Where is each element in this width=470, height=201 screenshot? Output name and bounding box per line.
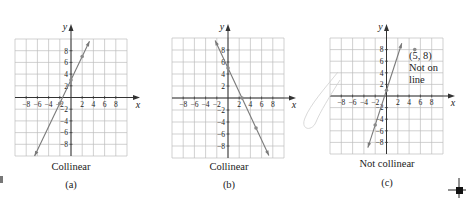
graph-c: xy−8−6−4−224688642−2−4−6−8 [330,21,456,154]
data-point [69,78,73,82]
svg-text:6: 6 [260,100,264,109]
line-arrow-icon [35,151,39,156]
outlier-coordinates: (5, 8) [409,50,438,62]
svg-text:6: 6 [419,98,423,107]
sublabel-b: (b) [209,179,249,190]
svg-text:2: 2 [237,100,241,109]
svg-text:8: 8 [114,100,118,109]
outlier-note-line1: Not on [409,62,438,74]
line-arrow-icon [86,41,90,46]
svg-text:6: 6 [380,57,384,66]
svg-text:4: 4 [407,98,411,107]
line-arrow-icon [368,142,371,147]
svg-text:6: 6 [103,100,107,109]
graph-a: xy−8−6−4−224688642−2−4−6−8 [15,21,141,156]
svg-text:2: 2 [221,82,225,91]
y-axis-label: y [62,21,68,32]
y-axis-arrow-icon [226,24,231,31]
x-axis-label: x [291,99,297,110]
graph-b: xy−8−6−4−224688642−2−4−6−8 [172,21,297,158]
svg-text:8: 8 [271,100,275,109]
svg-text:8: 8 [430,98,434,107]
x-axis-label: x [135,99,141,110]
svg-text:−2: −2 [217,106,225,115]
caption-c: Not collinear [327,158,447,169]
svg-text:8: 8 [221,46,225,55]
data-point [226,66,230,70]
svg-text:−8: −8 [217,142,225,151]
line-arrow-icon [398,43,401,48]
svg-text:4: 4 [221,70,225,79]
svg-text:−8: −8 [22,100,30,109]
svg-text:−4: −4 [360,98,368,107]
y-axis-label: y [377,21,383,32]
svg-text:2: 2 [380,80,384,89]
svg-text:−8: −8 [376,138,384,147]
svg-text:−6: −6 [349,98,357,107]
svg-text:−8: −8 [179,100,187,109]
svg-text:−6: −6 [33,100,41,109]
line-arrow-icon [265,150,269,155]
y-axis-arrow-icon [384,24,389,31]
data-point [385,88,389,92]
y-axis-label: y [219,21,225,32]
svg-text:−6: −6 [60,128,68,137]
svg-text:8: 8 [380,45,384,54]
x-axis-label: x [450,97,456,108]
svg-text:−6: −6 [376,127,384,136]
data-line [368,43,402,147]
data-point [373,123,377,127]
caption-b: Collinear [169,161,289,172]
data-point [80,55,84,59]
data-point [58,102,62,106]
svg-text:6: 6 [221,58,225,67]
data-point [240,96,244,100]
svg-text:4: 4 [64,70,68,79]
outlier-note-line2: line [409,74,438,86]
svg-text:8: 8 [64,47,68,56]
sublabel-a: (a) [51,179,91,190]
data-point [254,126,258,130]
caption-a: Collinear [11,161,131,172]
svg-text:4: 4 [92,100,96,109]
svg-text:4: 4 [249,100,253,109]
outlier-annotation: (5, 8) Not on line [409,50,438,86]
svg-text:2: 2 [396,98,400,107]
svg-text:−6: −6 [190,100,198,109]
end-of-example-icon [448,178,466,198]
sublabel-c: (c) [367,177,407,188]
loop-sketch-mark [304,72,340,128]
svg-text:−8: −8 [60,140,68,149]
svg-text:−2: −2 [60,105,68,114]
svg-text:−4: −4 [202,100,210,109]
svg-text:4: 4 [380,69,384,78]
svg-text:−4: −4 [217,118,225,127]
svg-text:2: 2 [80,100,84,109]
y-axis-arrow-icon [69,24,74,31]
svg-text:6: 6 [64,58,68,67]
svg-text:−6: −6 [217,130,225,139]
svg-text:−4: −4 [60,117,68,126]
svg-text:−4: −4 [45,100,53,109]
svg-text:−8: −8 [337,98,345,107]
page-edge-mark [0,176,3,183]
